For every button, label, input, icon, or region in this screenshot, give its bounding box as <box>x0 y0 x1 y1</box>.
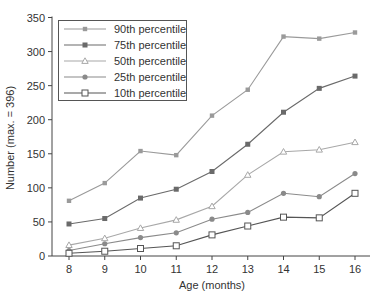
legend-label: 75th percentile <box>114 39 186 51</box>
marker-open-square-icon <box>138 246 144 252</box>
marker-open-square-icon <box>173 243 179 249</box>
marker-circle-icon <box>174 230 179 235</box>
marker-open-square-icon <box>245 223 251 229</box>
y-tick-label: 0 <box>39 250 45 262</box>
series-line <box>69 142 355 245</box>
marker-square-icon <box>246 88 250 92</box>
marker-triangle-icon <box>245 172 251 178</box>
series-line <box>69 174 355 251</box>
x-tick-label: 8 <box>66 263 72 275</box>
marker-open-square-icon <box>352 190 358 196</box>
marker-triangle-icon <box>352 139 358 145</box>
marker-circle-icon <box>82 74 87 79</box>
marker-open-square-icon <box>316 215 322 221</box>
x-tick-label: 11 <box>171 263 182 275</box>
marker-circle-icon <box>281 191 286 196</box>
marker-square-icon <box>174 153 178 157</box>
marker-square-icon <box>103 181 107 185</box>
legend-label: 90th percentile <box>114 23 186 35</box>
marker-square-icon <box>138 149 142 153</box>
marker-open-square-icon <box>82 90 88 96</box>
y-tick-label: 150 <box>27 148 45 160</box>
marker-square-icon <box>67 199 71 203</box>
legend-label: 10th percentile <box>114 87 186 99</box>
x-tick-label: 15 <box>313 263 325 275</box>
x-tick-label: 16 <box>349 263 361 275</box>
legend: 90th percentile75th percentile50th perce… <box>59 21 187 101</box>
y-tick-label: 200 <box>27 114 45 126</box>
x-tick-label: 10 <box>134 263 146 275</box>
marker-square-icon <box>353 30 357 34</box>
series-10th-percentile <box>66 190 358 256</box>
marker-circle-icon <box>209 217 214 222</box>
marker-square-icon <box>210 169 215 174</box>
y-tick-label: 350 <box>27 12 45 24</box>
y-tick-label: 100 <box>27 182 45 194</box>
marker-square-icon <box>317 86 322 91</box>
marker-square-icon <box>83 27 87 31</box>
marker-square-icon <box>317 36 321 40</box>
y-tick-label: 50 <box>33 216 45 228</box>
marker-open-square-icon <box>102 248 108 254</box>
marker-circle-icon <box>245 210 250 215</box>
series-25th-percentile <box>66 171 357 253</box>
marker-open-square-icon <box>281 214 287 220</box>
x-tick-label: 13 <box>242 263 254 275</box>
x-axis-label: Age (months) <box>179 279 245 291</box>
y-tick-label: 250 <box>27 80 45 92</box>
y-axis-label: Number (max. = 396) <box>4 86 16 190</box>
y-tick-label: 300 <box>27 46 45 58</box>
x-tick-label: 12 <box>206 263 218 275</box>
marker-square-icon <box>67 221 72 226</box>
x-tick-label: 14 <box>277 263 289 275</box>
marker-square-icon <box>102 216 107 221</box>
marker-square-icon <box>281 34 285 38</box>
marker-square-icon <box>210 113 214 117</box>
legend-label: 50th percentile <box>114 55 186 67</box>
marker-square-icon <box>353 74 358 79</box>
marker-open-square-icon <box>209 232 215 238</box>
marker-circle-icon <box>317 194 322 199</box>
marker-square-icon <box>83 43 88 48</box>
series-50th-percentile <box>66 139 358 247</box>
marker-circle-icon <box>102 241 107 246</box>
percentile-line-chart: 0501001502002503003508910111213141516 90… <box>0 0 383 300</box>
marker-square-icon <box>245 142 250 147</box>
marker-square-icon <box>138 196 143 201</box>
marker-square-icon <box>281 110 286 115</box>
marker-circle-icon <box>352 171 357 176</box>
legend-label: 25th percentile <box>114 71 186 83</box>
marker-square-icon <box>174 187 179 192</box>
marker-open-square-icon <box>66 250 72 256</box>
marker-circle-icon <box>138 235 143 240</box>
x-tick-label: 9 <box>102 263 108 275</box>
